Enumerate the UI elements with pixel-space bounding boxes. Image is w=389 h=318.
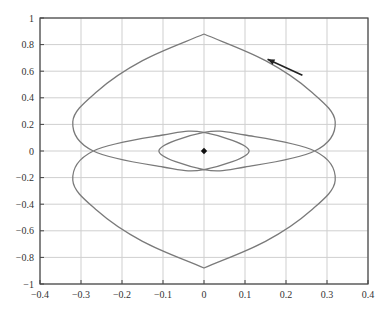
y-tick-label: 0.6 (22, 66, 35, 77)
y-tick-label: −0.4 (16, 199, 34, 210)
y-tick-label: −0.8 (16, 252, 34, 263)
x-tick-label: −0.1 (154, 289, 172, 300)
x-tick-label: 0.1 (239, 289, 252, 300)
x-tick-label: −0.4 (31, 289, 49, 300)
y-tick-label: −0.6 (16, 225, 34, 236)
x-tick-label: 0 (202, 289, 207, 300)
y-tick-label: 0 (29, 146, 34, 157)
x-tick-label: 0.3 (321, 289, 334, 300)
x-tick-label: −0.2 (113, 289, 131, 300)
y-tick-label: 0.2 (22, 119, 35, 130)
y-tick-label: 0.4 (22, 92, 35, 103)
y-tick-label: −1 (23, 279, 34, 290)
y-tick-label: 0.8 (22, 39, 35, 50)
phase-plot: −0.4−0.3−0.2−0.100.10.20.30.4 10.80.60.4… (0, 0, 389, 318)
x-tick-label: −0.3 (72, 289, 90, 300)
x-tick-label: 0.4 (362, 289, 375, 300)
y-tick-label: 1 (29, 13, 34, 24)
y-tick-label: −0.2 (16, 172, 34, 183)
x-tick-label: 0.2 (280, 289, 293, 300)
